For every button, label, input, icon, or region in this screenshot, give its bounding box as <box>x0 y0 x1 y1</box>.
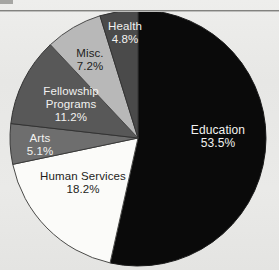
slice-label-education-value: 53.5% <box>170 137 266 150</box>
slice-label-fellowship-programs: Fellowship Programs 11.2% <box>26 85 116 124</box>
slice-label-human-services-name: Human Services <box>22 170 144 183</box>
slice-label-fellowship-programs-name-line2: Programs <box>26 98 116 111</box>
slice-label-fellowship-programs-value: 11.2% <box>26 111 116 124</box>
slice-label-human-services: Human Services 18.2% <box>22 170 144 196</box>
slice-label-misc-name: Misc. <box>61 47 119 60</box>
slice-label-arts-name: Arts <box>12 132 68 145</box>
slice-label-arts-value: 5.1% <box>12 145 68 158</box>
slice-label-human-services-value: 18.2% <box>22 183 144 196</box>
slice-label-education: Education 53.5% <box>170 124 266 151</box>
slice-label-misc-value: 7.2% <box>61 60 119 73</box>
slice-label-health-name: Health <box>96 20 154 33</box>
slice-label-education-name: Education <box>170 124 266 137</box>
slice-label-misc: Misc. 7.2% <box>61 47 119 73</box>
slice-label-health: Health 4.8% <box>96 20 154 46</box>
slice-label-fellowship-programs-name: Fellowship <box>26 85 116 98</box>
slice-label-arts: Arts 5.1% <box>12 132 68 158</box>
scan-artifact <box>0 0 13 4</box>
slice-label-health-value: 4.8% <box>96 33 154 46</box>
pie-chart: Education 53.5% Human Services 18.2% Art… <box>0 12 279 270</box>
